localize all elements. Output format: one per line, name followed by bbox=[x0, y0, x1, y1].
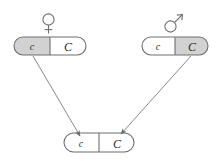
mother-allele-2-label: C bbox=[64, 40, 73, 54]
father-allele-2-label: C bbox=[188, 40, 197, 54]
female-venus-symbol bbox=[43, 14, 54, 34]
arrow-mother-to-offspring bbox=[33, 56, 80, 136]
diagram-canvas: c C c C c C bbox=[0, 0, 216, 162]
genetics-cross-svg: c C c C c C bbox=[0, 0, 216, 162]
offspring-allele-1-label: c bbox=[79, 138, 84, 149]
father-allele-1-label: c bbox=[156, 41, 161, 52]
mother-allele-1-label: c bbox=[30, 41, 35, 52]
offspring-allele-2-label: C bbox=[113, 137, 122, 151]
mother-chromosome[interactable]: c C bbox=[14, 37, 86, 55]
arrow-father-to-offspring bbox=[121, 56, 191, 134]
offspring-chromosome[interactable]: c C bbox=[64, 133, 134, 152]
male-mars-symbol bbox=[165, 15, 183, 33]
father-chromosome[interactable]: c C bbox=[142, 37, 208, 55]
